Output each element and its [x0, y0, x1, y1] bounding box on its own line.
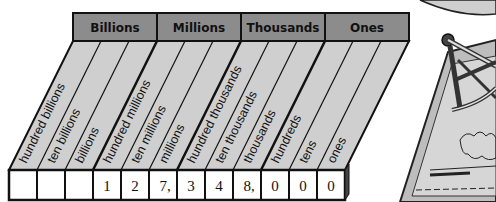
period-header-ones: Ones — [325, 13, 409, 41]
digit-cell: 4 — [205, 170, 233, 200]
period-header-thousands: Thousands — [241, 13, 325, 41]
period-headers: BillionsMillionsThousandsOnes — [73, 13, 409, 41]
digit-cell: 7, — [149, 170, 177, 200]
digit-value: 8, — [243, 178, 254, 194]
digit-cell — [65, 170, 93, 200]
digit-cell — [9, 170, 37, 200]
period-label: Billions — [90, 21, 140, 35]
digit-cell: 8, — [233, 170, 261, 200]
sextant-map-illustration — [400, 0, 496, 202]
period-label: Ones — [350, 21, 384, 35]
place-value-chart: hundred billionsten billionsbillionshund… — [0, 0, 496, 202]
digit-cell: 3 — [177, 170, 205, 200]
digit-value: 0 — [327, 178, 335, 194]
digit-value: 0 — [299, 178, 307, 194]
digit-cell: 0 — [261, 170, 289, 200]
period-header-billions: Billions — [73, 13, 157, 41]
period-label: Thousands — [246, 21, 319, 35]
digit-cell: 1 — [93, 170, 121, 200]
place-columns: hundred billionsten billionsbillionshund… — [9, 41, 409, 170]
digit-value: 1 — [103, 178, 111, 194]
period-label: Millions — [173, 21, 225, 35]
digit-value: 7, — [159, 178, 170, 194]
digit-cell: 0 — [317, 170, 345, 200]
digit-value: 0 — [271, 178, 279, 194]
digit-value: 2 — [131, 178, 139, 194]
digit-value: 4 — [215, 178, 223, 194]
digit-cells: 127,348,000 — [9, 164, 349, 200]
digit-cell: 2 — [121, 170, 149, 200]
digit-value: 3 — [187, 178, 195, 194]
digit-cell: 0 — [289, 170, 317, 200]
digit-cell — [37, 170, 65, 200]
period-header-millions: Millions — [157, 13, 241, 41]
